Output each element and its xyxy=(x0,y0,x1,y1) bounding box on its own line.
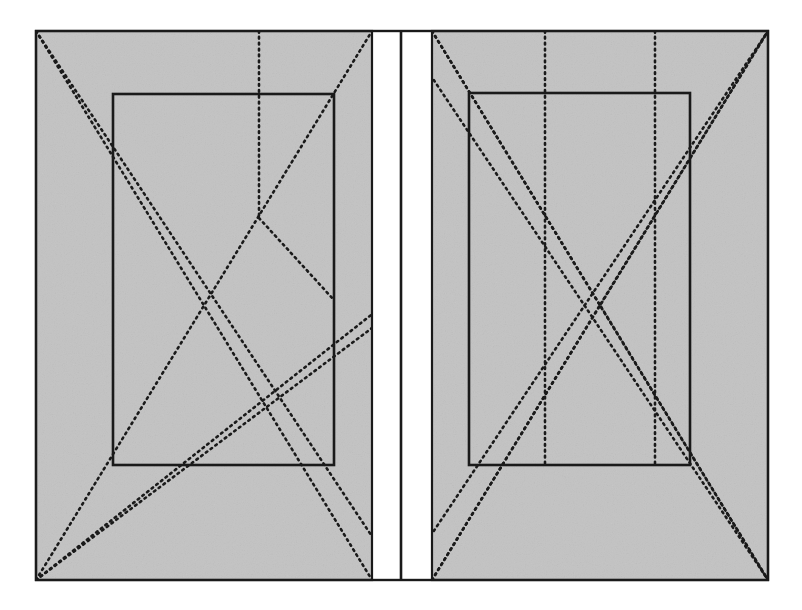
figure-canvas: Construction of the page and the text ar… xyxy=(0,0,802,610)
page-construction-diagram xyxy=(0,0,802,610)
right-page-group xyxy=(401,31,768,580)
